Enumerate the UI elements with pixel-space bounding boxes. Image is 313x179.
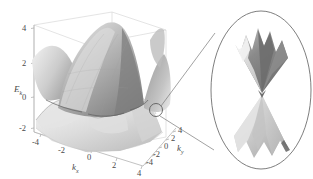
kx-tick-0: 0 [87,153,91,162]
energy-tick-4: 4 [22,24,26,33]
energy-axis-label: Ek [14,85,22,96]
ky-tick-neg4: -4 [146,158,153,167]
energy-tick-0: 0 [22,93,26,102]
energy-tick-neg2: -2 [19,124,26,133]
ky-tick-neg2: -2 [153,150,160,159]
kx-tick-4: 4 [137,169,141,178]
kx-tick-neg2: -2 [58,146,65,155]
ky-tick-0: 0 [164,142,168,151]
kx-tick-2: 2 [112,161,116,170]
kx-tick-neg4: -4 [32,138,39,147]
dirac-cone-inset [211,11,311,169]
ky-tick-4: 4 [178,126,182,135]
energy-tick-2: 2 [22,59,26,68]
kx-axis-label: kx [72,163,79,174]
ky-axis-label: ky [177,144,184,155]
ky-tick-2: 2 [171,134,175,143]
